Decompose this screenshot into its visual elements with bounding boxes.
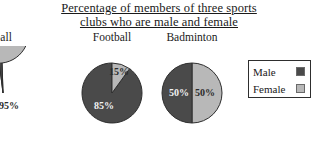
legend-swatch-female-icon (296, 84, 305, 93)
pie-label-netball: Netball (0, 31, 40, 44)
legend-item-female: Female (249, 80, 310, 97)
legend-label-female: Female (253, 83, 285, 95)
badminton-value-male: 50% (169, 87, 189, 98)
pie-chart-figure: Percentage of members of three sports cl… (0, 0, 318, 142)
legend-swatch-male-icon (296, 67, 305, 76)
pie-chart-football: Football 15% 85% (79, 31, 145, 131)
chart-title-line-1: Percentage of members of three sports (0, 1, 318, 15)
netball-pie-svg: 95% (0, 46, 34, 126)
pie-chart-netball: Netball 95% (0, 31, 34, 131)
badminton-pie-svg: 50% 50% (159, 46, 225, 126)
pie-label-football: Football (79, 31, 145, 44)
netball-slice-female (0, 46, 29, 93)
legend-item-male: Male (249, 63, 310, 80)
chart-title: Percentage of members of three sports cl… (0, 1, 318, 29)
chart-title-line-2: clubs who are male and female (0, 15, 318, 29)
chart-legend: Male Female (248, 60, 311, 98)
pie-label-badminton: Badminton (159, 31, 225, 44)
badminton-value-female: 50% (195, 87, 215, 98)
netball-slice-male (0, 63, 3, 93)
football-value-female: 15% (109, 66, 129, 77)
football-value-male: 85% (94, 100, 114, 111)
netball-value-female: 95% (0, 100, 19, 111)
football-pie-svg: 15% 85% (79, 46, 145, 126)
pie-chart-badminton: Badminton 50% 50% (159, 31, 225, 131)
legend-label-male: Male (253, 66, 276, 78)
